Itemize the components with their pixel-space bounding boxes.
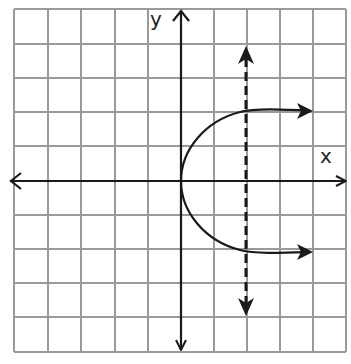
x-axis-label: x (320, 144, 332, 168)
coordinate-graph: y x (0, 0, 351, 364)
axes (10, 11, 346, 350)
y-axis-label: y (150, 7, 162, 31)
